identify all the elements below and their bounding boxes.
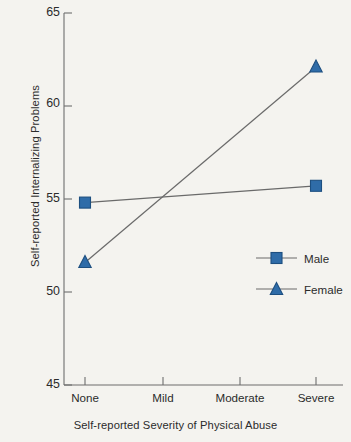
legend-marker-male (271, 253, 282, 264)
data-point-female-severe (310, 60, 322, 72)
series-line-male (85, 186, 316, 203)
data-point-male-none (80, 197, 91, 208)
data-point-female-none (79, 256, 91, 268)
series-line-female (85, 67, 316, 263)
data-point-male-severe (311, 180, 322, 191)
plot-area (0, 0, 351, 442)
chart-figure: Self-reported Internalizing Problems Sel… (0, 0, 351, 442)
